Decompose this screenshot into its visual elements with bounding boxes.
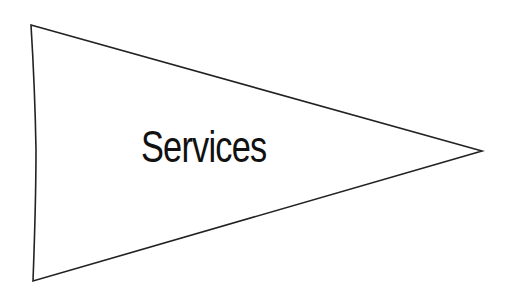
pennant-label: Services <box>141 121 266 173</box>
